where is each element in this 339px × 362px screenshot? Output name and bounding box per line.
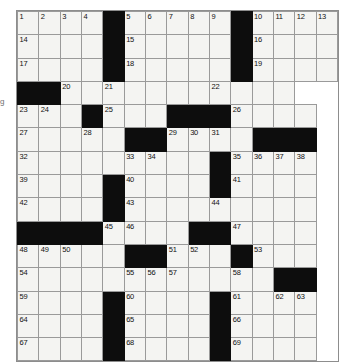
crossword-cell[interactable] bbox=[124, 105, 145, 128]
crossword-cell[interactable]: 39 bbox=[18, 175, 39, 198]
crossword-cell[interactable]: 30 bbox=[188, 128, 209, 151]
crossword-cell[interactable]: 14 bbox=[18, 35, 39, 58]
crossword-cell[interactable] bbox=[60, 314, 81, 337]
crossword-cell[interactable] bbox=[316, 58, 337, 81]
crossword-cell[interactable] bbox=[145, 81, 166, 104]
crossword-cell[interactable] bbox=[39, 128, 60, 151]
crossword-cell[interactable]: 29 bbox=[167, 128, 188, 151]
crossword-cell[interactable]: 19 bbox=[252, 58, 273, 81]
crossword-cell[interactable]: 41 bbox=[231, 175, 252, 198]
crossword-cell[interactable] bbox=[39, 198, 60, 221]
crossword-cell[interactable] bbox=[145, 175, 166, 198]
crossword-cell[interactable] bbox=[145, 221, 166, 244]
crossword-cell[interactable] bbox=[167, 58, 188, 81]
crossword-cell[interactable]: 52 bbox=[188, 244, 209, 267]
crossword-cell[interactable]: 7 bbox=[167, 12, 188, 35]
crossword-cell[interactable] bbox=[103, 268, 124, 291]
crossword-cell[interactable] bbox=[273, 338, 294, 361]
crossword-cell[interactable]: 66 bbox=[231, 314, 252, 337]
crossword-cell[interactable]: 62 bbox=[273, 291, 294, 314]
crossword-cell[interactable]: 12 bbox=[295, 12, 316, 35]
crossword-cell[interactable] bbox=[295, 244, 316, 267]
crossword-cell[interactable] bbox=[252, 221, 273, 244]
crossword-cell[interactable] bbox=[60, 105, 81, 128]
crossword-cell[interactable]: 40 bbox=[124, 175, 145, 198]
crossword-cell[interactable] bbox=[81, 314, 102, 337]
crossword-cell[interactable] bbox=[39, 58, 60, 81]
crossword-cell[interactable]: 4 bbox=[81, 12, 102, 35]
crossword-cell[interactable] bbox=[188, 338, 209, 361]
crossword-cell[interactable] bbox=[81, 291, 102, 314]
crossword-cell[interactable]: 49 bbox=[39, 244, 60, 267]
crossword-cell[interactable] bbox=[231, 81, 252, 104]
crossword-cell[interactable] bbox=[81, 35, 102, 58]
crossword-cell[interactable] bbox=[145, 314, 166, 337]
crossword-cell[interactable] bbox=[252, 291, 273, 314]
crossword-cell[interactable]: 1 bbox=[18, 12, 39, 35]
crossword-cell[interactable] bbox=[188, 314, 209, 337]
crossword-cell[interactable] bbox=[188, 268, 209, 291]
crossword-cell[interactable]: 53 bbox=[252, 244, 273, 267]
crossword-cell[interactable] bbox=[60, 128, 81, 151]
crossword-cell[interactable]: 21 bbox=[103, 81, 124, 104]
crossword-cell[interactable]: 48 bbox=[18, 244, 39, 267]
crossword-cell[interactable]: 20 bbox=[60, 81, 81, 104]
crossword-cell[interactable] bbox=[273, 314, 294, 337]
crossword-cell[interactable]: 2 bbox=[39, 12, 60, 35]
crossword-cell[interactable] bbox=[167, 151, 188, 174]
crossword-cell[interactable]: 68 bbox=[124, 338, 145, 361]
crossword-cell[interactable]: 69 bbox=[231, 338, 252, 361]
crossword-cell[interactable]: 3 bbox=[60, 12, 81, 35]
crossword-cell[interactable]: 56 bbox=[145, 268, 166, 291]
crossword-cell[interactable] bbox=[188, 291, 209, 314]
crossword-cell[interactable] bbox=[273, 81, 294, 104]
crossword-cell[interactable]: 50 bbox=[60, 244, 81, 267]
crossword-cell[interactable] bbox=[60, 175, 81, 198]
crossword-cell[interactable] bbox=[60, 35, 81, 58]
crossword-cell[interactable]: 23 bbox=[18, 105, 39, 128]
crossword-cell[interactable] bbox=[273, 58, 294, 81]
crossword-cell[interactable] bbox=[252, 314, 273, 337]
crossword-cell[interactable] bbox=[295, 221, 316, 244]
crossword-cell[interactable] bbox=[273, 175, 294, 198]
crossword-cell[interactable]: 55 bbox=[124, 268, 145, 291]
crossword-cell[interactable] bbox=[188, 35, 209, 58]
crossword-cell[interactable] bbox=[252, 175, 273, 198]
crossword-cell[interactable] bbox=[231, 198, 252, 221]
crossword-cell[interactable]: 38 bbox=[295, 151, 316, 174]
crossword-cell[interactable] bbox=[124, 81, 145, 104]
crossword-cell[interactable] bbox=[103, 128, 124, 151]
crossword-cell[interactable]: 9 bbox=[209, 12, 230, 35]
crossword-cell[interactable]: 42 bbox=[18, 198, 39, 221]
crossword-cell[interactable] bbox=[145, 198, 166, 221]
crossword-cell[interactable] bbox=[81, 175, 102, 198]
crossword-cell[interactable] bbox=[39, 35, 60, 58]
crossword-cell[interactable] bbox=[295, 35, 316, 58]
crossword-cell[interactable] bbox=[60, 58, 81, 81]
crossword-cell[interactable]: 33 bbox=[124, 151, 145, 174]
crossword-cell[interactable]: 61 bbox=[231, 291, 252, 314]
crossword-cell[interactable] bbox=[39, 175, 60, 198]
crossword-cell[interactable] bbox=[145, 105, 166, 128]
crossword-cell[interactable] bbox=[60, 338, 81, 361]
crossword-cell[interactable] bbox=[188, 58, 209, 81]
crossword-cell[interactable] bbox=[167, 291, 188, 314]
crossword-cell[interactable]: 60 bbox=[124, 291, 145, 314]
crossword-cell[interactable] bbox=[167, 175, 188, 198]
crossword-cell[interactable]: 8 bbox=[188, 12, 209, 35]
crossword-cell[interactable] bbox=[60, 268, 81, 291]
crossword-cell[interactable] bbox=[81, 81, 102, 104]
crossword-cell[interactable]: 16 bbox=[252, 35, 273, 58]
crossword-cell[interactable] bbox=[81, 58, 102, 81]
crossword-cell[interactable] bbox=[167, 81, 188, 104]
crossword-cell[interactable] bbox=[167, 314, 188, 337]
crossword-cell[interactable] bbox=[209, 268, 230, 291]
crossword-cell[interactable] bbox=[273, 35, 294, 58]
crossword-cell[interactable] bbox=[295, 198, 316, 221]
crossword-cell[interactable] bbox=[209, 58, 230, 81]
crossword-cell[interactable] bbox=[295, 105, 316, 128]
crossword-cell[interactable]: 35 bbox=[231, 151, 252, 174]
crossword-cell[interactable] bbox=[81, 268, 102, 291]
crossword-cell[interactable]: 36 bbox=[252, 151, 273, 174]
crossword-cell[interactable] bbox=[188, 175, 209, 198]
